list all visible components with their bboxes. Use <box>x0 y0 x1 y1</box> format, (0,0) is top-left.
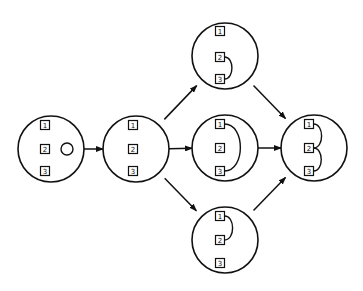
state-node-pair-1-3: 123 <box>192 115 258 181</box>
box-label: 1 <box>218 121 222 129</box>
box-label: 1 <box>43 122 47 130</box>
box-label: 2 <box>307 145 311 153</box>
connection-arc <box>225 124 241 171</box>
box-label: 3 <box>218 260 222 268</box>
connection-arc <box>314 148 322 171</box>
state-node-pair-2-3: 123 <box>192 23 258 89</box>
box-label: 1 <box>307 121 311 129</box>
box-label: 1 <box>218 28 222 36</box>
box-label: 2 <box>218 145 222 153</box>
box-label: 3 <box>307 168 311 176</box>
connection-arc <box>225 216 233 240</box>
state-node-all-joined: 123 <box>281 115 347 181</box>
box-label: 3 <box>131 168 135 176</box>
connection-arc <box>314 124 322 148</box>
connection-arc <box>225 57 232 79</box>
arrow-three-boxes-to-pair-2-3 <box>164 86 196 120</box>
state-node-start: 123 <box>18 116 84 182</box>
arrow-pair-2-3-to-all-joined <box>254 85 286 118</box>
state-node-pair-1-2: 123 <box>192 207 258 273</box>
edges <box>84 85 285 210</box>
box-label: 2 <box>43 146 47 154</box>
diagram-canvas: 123123123123123123 <box>0 0 363 291</box>
arrow-pair-1-2-to-all-joined <box>254 177 286 210</box>
box-label: 3 <box>218 168 222 176</box>
box-label: 3 <box>43 168 47 176</box>
state-node-three-boxes: 123 <box>103 116 169 182</box>
box-label: 1 <box>131 122 135 130</box>
small-circle <box>61 143 73 155</box>
state-circle <box>18 116 84 182</box>
box-label: 1 <box>218 213 222 221</box>
box-label: 3 <box>218 76 222 84</box>
box-label: 2 <box>131 146 135 154</box>
box-label: 2 <box>218 54 222 62</box>
arrow-three-boxes-to-pair-1-2 <box>165 178 197 210</box>
box-label: 2 <box>218 237 222 245</box>
